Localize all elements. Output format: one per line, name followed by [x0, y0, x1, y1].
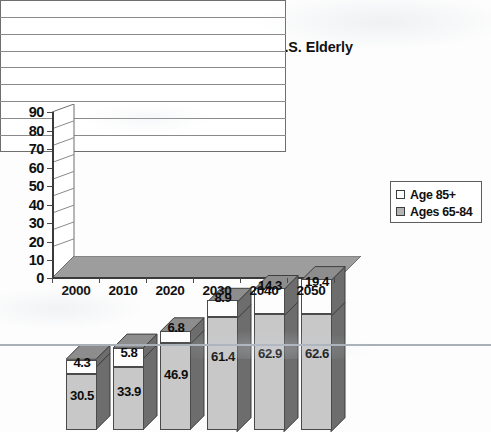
y-axis-label-40: 40 — [0, 200, 44, 210]
y-axis-line — [52, 112, 54, 279]
y-tick-60 — [47, 168, 52, 169]
y-tick-70 — [47, 149, 52, 150]
legend-swatch-icon-ages-65-84 — [396, 207, 405, 216]
bar-segment-2030-ages-65-84[interactable] — [207, 317, 238, 430]
x-axis-label-2030: 2030 — [190, 283, 244, 298]
bar-segment-2040-ages-65-84[interactable] — [254, 314, 285, 430]
bar-value-2010-ages-65-84: 33.9 — [103, 384, 155, 399]
gridline-30 — [0, 101, 286, 102]
x-axis-label-2010: 2010 — [96, 283, 150, 298]
y-axis-label-70: 70 — [0, 144, 44, 154]
y-tick-40 — [47, 205, 52, 206]
bar-segment-2050-ages-65-84[interactable] — [301, 314, 332, 430]
chart-legend[interactable]: Age 85+ Ages 65-84 — [390, 181, 482, 223]
gridline-40 — [0, 84, 286, 85]
y-tick-80 — [47, 131, 52, 132]
x-axis-label-2040: 2040 — [237, 283, 291, 298]
y-tick-10 — [47, 260, 52, 261]
gridline-50 — [0, 67, 286, 68]
legend-label-age-85-plus: Age 85+ — [410, 188, 456, 202]
page-divider-rule — [0, 344, 491, 346]
legend-item-ages-65-84[interactable]: Ages 65-84 — [396, 203, 481, 220]
x-axis-label-2020: 2020 — [143, 283, 197, 298]
chart-left-wall — [52, 104, 75, 278]
bar-value-2020-age-85-plus: 6.8 — [152, 320, 200, 335]
x-axis-label-2050: 2050 — [284, 283, 338, 298]
bar-value-2020-ages-65-84: 46.9 — [150, 367, 202, 382]
cut-off-footer-text — [0, 349, 491, 359]
y-tick-90 — [47, 112, 52, 113]
y-axis-label-90: 90 — [0, 107, 44, 117]
y-tick-20 — [47, 242, 52, 243]
y-axis-label-0: 0 — [0, 273, 44, 283]
y-axis-label-30: 30 — [0, 218, 44, 228]
legend-swatch-icon-age-85-plus — [396, 190, 405, 199]
y-axis-label-50: 50 — [0, 181, 44, 191]
y-axis-label-10: 10 — [0, 255, 44, 265]
legend-label-ages-65-84: Ages 65-84 — [410, 205, 472, 219]
bar-value-2000-ages-65-84: 30.5 — [56, 388, 108, 403]
gridline-60 — [0, 51, 286, 52]
y-axis-label-60: 60 — [0, 163, 44, 173]
y-tick-30 — [47, 223, 52, 224]
y-tick-50 — [47, 186, 52, 187]
gridline-80 — [0, 17, 286, 18]
legend-item-age-85-plus[interactable]: Age 85+ — [396, 186, 481, 203]
y-axis-label-20: 20 — [0, 237, 44, 247]
gridline-70 — [0, 34, 286, 35]
y-axis-label-80: 80 — [0, 126, 44, 136]
x-axis-label-2000: 2000 — [49, 283, 103, 298]
